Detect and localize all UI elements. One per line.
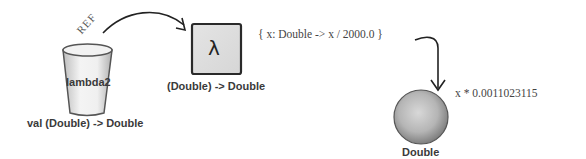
double-object-ball-icon [394, 90, 448, 144]
lambda-code: { x: Double -> x / 2000.0 } [258, 28, 383, 40]
lambda-type-label: (Double) -> Double [167, 80, 265, 92]
lambda-symbol: λ [208, 36, 220, 60]
result-arrow-icon [415, 37, 438, 88]
double-type-label: Double [402, 146, 439, 158]
variable-name: lambda2 [66, 76, 111, 88]
result-expression: x * 0.0011023115 [455, 87, 538, 99]
variable-type-label: val (Double) -> Double [27, 117, 143, 129]
ref-arrow-icon [103, 13, 184, 33]
